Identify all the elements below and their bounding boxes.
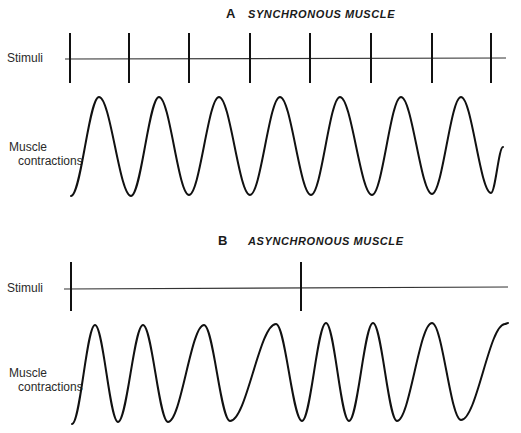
panel-a-stimuli-baseline <box>65 58 506 59</box>
panel-a-contraction-label-line1: Muscle <box>9 140 47 154</box>
panel-a-synchronous: A SYNCHRONOUS MUSCLE Stimuli Muscle cont… <box>7 6 506 196</box>
panel-a-contraction-wave <box>71 97 503 196</box>
panel-b-letter: B <box>218 233 227 248</box>
panel-a-letter: A <box>226 6 236 21</box>
panel-a-contraction-label-line2: contractions <box>18 154 83 168</box>
panel-b-contraction-label-line1: Muscle <box>9 366 47 380</box>
panel-a-stimuli-label: Stimuli <box>7 51 43 65</box>
panel-b-contraction-wave <box>72 323 508 424</box>
panel-b-contraction-label-line2: contractions <box>18 380 83 394</box>
panel-b-asynchronous: B ASYNCHRONOUS MUSCLE Stimuli Muscle con… <box>7 233 508 424</box>
muscle-contraction-diagram: A SYNCHRONOUS MUSCLE Stimuli Muscle cont… <box>0 0 521 433</box>
panel-a-title: SYNCHRONOUS MUSCLE <box>248 8 395 20</box>
panel-b-stimuli-label: Stimuli <box>7 281 43 295</box>
panel-b-stimuli-ticks <box>71 262 301 311</box>
panel-b-stimuli-baseline <box>64 287 508 289</box>
panel-b-title: ASYNCHRONOUS MUSCLE <box>247 235 404 247</box>
